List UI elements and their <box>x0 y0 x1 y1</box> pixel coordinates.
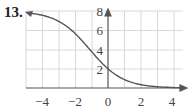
y-tick-labels: 2 4 6 8 <box>97 4 104 77</box>
svg-text:2: 2 <box>138 94 145 109</box>
x-tick-labels: −4 −2 0 2 4 <box>35 94 176 109</box>
svg-text:0: 0 <box>105 94 112 109</box>
svg-text:6: 6 <box>97 23 104 38</box>
svg-text:−2: −2 <box>68 94 82 109</box>
svg-text:8: 8 <box>97 4 104 19</box>
x-axis-arrow-icon <box>180 85 187 91</box>
svg-text:4: 4 <box>97 43 104 58</box>
grid <box>26 11 183 88</box>
svg-text:4: 4 <box>169 94 176 109</box>
y-axis-arrow-icon <box>105 9 111 16</box>
svg-text:2: 2 <box>97 62 104 77</box>
svg-text:−4: −4 <box>35 94 49 109</box>
chart: −4 −2 0 2 4 2 4 6 8 <box>0 0 195 112</box>
